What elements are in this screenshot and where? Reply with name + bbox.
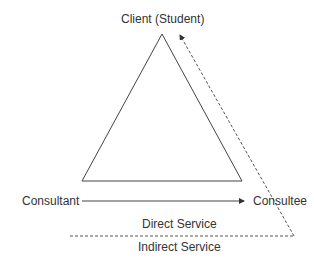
- consultation-triangle-diagram: Client (Student) Consultant Consultee Di…: [0, 0, 314, 263]
- direct-service-label: Direct Service: [142, 217, 217, 231]
- consultee-label: Consultee: [253, 194, 307, 208]
- client-label: Client (Student): [121, 12, 204, 26]
- indirect-service-label: Indirect Service: [138, 240, 221, 254]
- triangle: [82, 34, 242, 181]
- consultant-label: Consultant: [22, 194, 79, 208]
